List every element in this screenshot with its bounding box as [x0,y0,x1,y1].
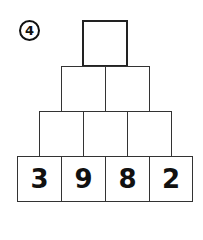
pyramid-row2-cell[interactable] [105,66,150,112]
pyramid-base-cell: 9 [61,156,106,202]
pyramid-base-cell: 2 [149,156,193,202]
pyramid-row3-cell[interactable] [83,111,128,157]
pyramid-top-cell[interactable] [82,20,128,67]
pyramid-row3-cell[interactable] [39,111,84,157]
problem-number-badge: 4 [19,20,40,41]
pyramid-row3-cell[interactable] [127,111,172,157]
pyramid-base-cell: 3 [17,156,62,202]
pyramid-row2-cell[interactable] [61,66,106,112]
pyramid-base-cell: 8 [105,156,150,202]
